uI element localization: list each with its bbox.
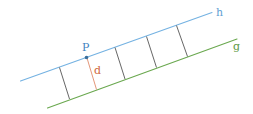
line-h xyxy=(21,13,213,82)
perpendicular-segment xyxy=(115,48,125,80)
perpendicular-segment xyxy=(60,68,70,100)
point-p xyxy=(85,56,89,60)
perpendicular-segment xyxy=(147,37,157,68)
label-g: g xyxy=(233,40,240,53)
label-h: h xyxy=(216,6,223,19)
parallel-lines-diagram: h g P d xyxy=(0,0,253,114)
perpendicular-segments xyxy=(60,26,188,100)
label-d: d xyxy=(94,64,101,77)
perpendicular-segment xyxy=(177,26,188,57)
line-g xyxy=(48,39,238,108)
label-p: P xyxy=(82,41,90,54)
